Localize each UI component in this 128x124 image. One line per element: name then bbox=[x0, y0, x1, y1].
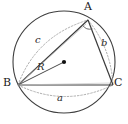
vertex-label-C: C bbox=[114, 77, 122, 88]
triangle-side-b bbox=[88, 20, 113, 85]
auxiliary-ray-b-to-a bbox=[18, 24, 86, 85]
arc-a-dashed bbox=[18, 85, 113, 97]
circumcenter-dot bbox=[62, 60, 66, 64]
vertex-label-A: A bbox=[84, 1, 92, 12]
side-label-c: c bbox=[35, 35, 41, 45]
figure-canvas bbox=[0, 0, 128, 124]
radius-label-R: R bbox=[37, 62, 45, 72]
vertex-label-B: B bbox=[3, 77, 11, 88]
side-label-a: a bbox=[57, 93, 63, 103]
geometry-figure: A B C a b c R bbox=[0, 0, 128, 124]
side-label-b: b bbox=[101, 38, 107, 48]
